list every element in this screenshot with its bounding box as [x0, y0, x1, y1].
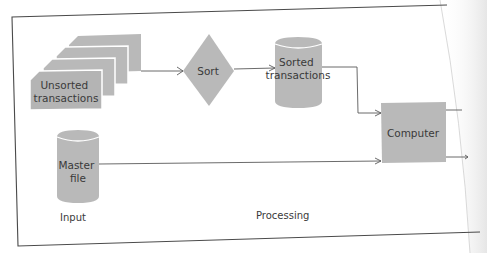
section-label-input: Input — [60, 212, 86, 223]
edge-sorted-to-computer — [322, 67, 381, 113]
section-label-processing: Processing — [256, 210, 309, 221]
page-curl-shadow — [440, 0, 487, 253]
unsorted-transactions-stack: Unsorted transactions — [30, 34, 141, 110]
sort-node: Sort — [183, 34, 234, 106]
edge-master-to-computer — [99, 161, 381, 164]
flowchart-diagram: Unsorted transactions Sort Sorted transa… — [0, 0, 487, 253]
unsorted-label: Unsorted transactions — [34, 79, 99, 104]
master-file-node: Master file — [57, 130, 99, 203]
computer-node: Computer — [381, 102, 446, 163]
computer-label: Computer — [387, 127, 440, 139]
sort-label: Sort — [197, 65, 219, 77]
sorted-transactions-node: Sorted transactions — [266, 37, 331, 108]
